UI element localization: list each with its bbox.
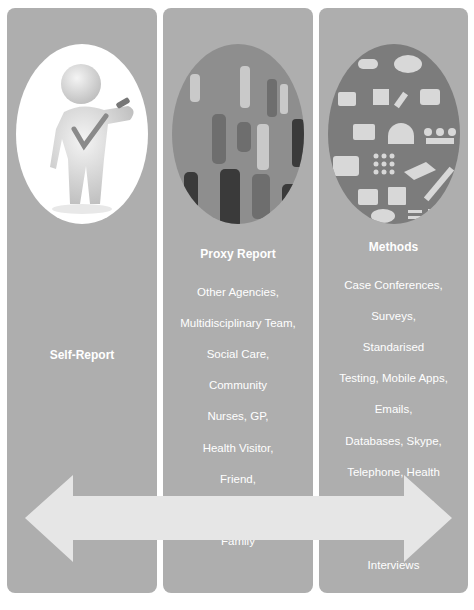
proxy-item: Family xyxy=(163,534,313,550)
proxy-item: Nurses, GP, xyxy=(163,409,313,425)
proxy-report-list: Other Agencies, Multidisciplinary Team, … xyxy=(163,269,313,565)
self-report-title: Self-Report xyxy=(7,348,157,362)
method-item: Interviews xyxy=(319,558,468,574)
proxy-report-column: Proxy Report Other Agencies, Multidiscip… xyxy=(163,8,313,593)
method-item: Emails, xyxy=(319,402,468,418)
self-report-figure-image xyxy=(16,44,148,224)
method-item: Conversation, xyxy=(319,527,468,543)
self-report-column: Self-Report xyxy=(7,8,157,593)
method-item: Surveys, xyxy=(319,309,468,325)
proxy-item: Health Visitor, xyxy=(163,441,313,457)
proxy-item: Community xyxy=(163,378,313,394)
people-silhouettes-icon xyxy=(172,44,304,224)
method-icons-collage-icon xyxy=(328,44,460,224)
proxy-report-title: Proxy Report xyxy=(163,247,313,261)
method-item: Case Conferences, xyxy=(319,278,468,294)
method-item: Standarised xyxy=(319,340,468,356)
method-item: Telephone, Health xyxy=(319,465,468,481)
proxy-report-people-image xyxy=(172,44,304,224)
proxy-item: Neighbours, xyxy=(163,503,313,519)
methods-icons-image xyxy=(328,44,460,224)
methods-title: Methods xyxy=(319,240,468,254)
methods-column: Methods Case Conferences, Surveys, Stand… xyxy=(319,8,468,593)
method-item: Testing, Mobile Apps, xyxy=(319,371,468,387)
methods-list: Case Conferences, Surveys, Standarised T… xyxy=(319,262,468,589)
person-checkmark-icon xyxy=(16,44,148,224)
proxy-item: Multidisciplinary Team, xyxy=(163,316,313,332)
method-item: Databases, Skype, xyxy=(319,434,468,450)
proxy-item: Friend, xyxy=(163,472,313,488)
proxy-item: Social Care, xyxy=(163,347,313,363)
method-item: Records, Letters, xyxy=(319,496,468,512)
proxy-item: Other Agencies, xyxy=(163,285,313,301)
